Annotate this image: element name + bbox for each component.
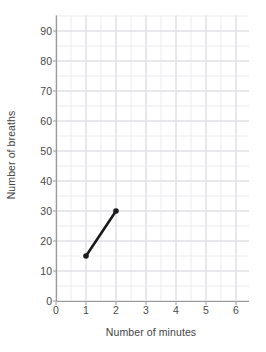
y-tick-label: 80 xyxy=(26,56,52,67)
chart-container: Number of breaths 0102030405060708090 01… xyxy=(0,0,266,352)
y-tick-label: 40 xyxy=(26,176,52,187)
x-tick-label: 6 xyxy=(224,305,248,316)
y-tick-label: 10 xyxy=(26,266,52,277)
y-tick-label: 30 xyxy=(26,206,52,217)
x-axis-title: Number of minutes xyxy=(56,326,246,338)
x-tick-label: 0 xyxy=(44,305,68,316)
y-tick-label: 20 xyxy=(26,236,52,247)
x-axis-tick-labels: 0123456 xyxy=(56,305,256,321)
y-tick-label: 50 xyxy=(26,146,52,157)
x-tick-label: 2 xyxy=(104,305,128,316)
x-tick-label: 3 xyxy=(134,305,158,316)
data-series-line xyxy=(56,16,245,301)
y-tick-label: 0 xyxy=(26,296,52,307)
y-tick-label: 70 xyxy=(26,86,52,97)
plot-area xyxy=(56,16,245,301)
x-tick-label: 5 xyxy=(194,305,218,316)
y-axis-title: Number of breaths xyxy=(0,0,22,310)
y-tick-label: 90 xyxy=(26,26,52,37)
y-axis-title-text: Number of breaths xyxy=(5,111,17,200)
y-axis-tick-labels: 0102030405060708090 xyxy=(22,0,52,352)
y-tick-label: 60 xyxy=(26,116,52,127)
x-tick-label: 1 xyxy=(74,305,98,316)
x-tick-label: 4 xyxy=(164,305,188,316)
